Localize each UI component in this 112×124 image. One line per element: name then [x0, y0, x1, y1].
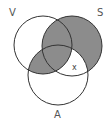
region-marker-x: x: [72, 63, 77, 72]
set-s-label: S: [97, 7, 103, 18]
set-v-label: V: [9, 7, 16, 18]
set-a-label: A: [54, 109, 61, 120]
venn-diagram: V S A x: [0, 0, 112, 124]
